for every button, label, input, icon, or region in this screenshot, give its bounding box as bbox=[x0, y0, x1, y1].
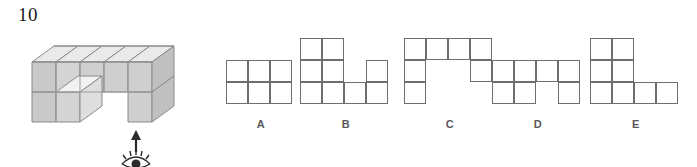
option-d-grid bbox=[492, 60, 584, 126]
solid-figure-3d bbox=[22, 30, 222, 140]
option-e-label: E bbox=[590, 118, 682, 130]
option-e-cell bbox=[590, 60, 612, 82]
option-b-cell bbox=[322, 82, 344, 104]
option-a-label: A bbox=[226, 118, 296, 130]
option-c-grid bbox=[404, 38, 496, 104]
option-b-grid bbox=[300, 38, 392, 104]
view-direction-svg bbox=[112, 128, 160, 167]
option-e[interactable]: E bbox=[590, 30, 682, 104]
option-d-cell bbox=[492, 82, 514, 104]
option-d-cell bbox=[514, 82, 536, 104]
option-e-grid bbox=[590, 38, 682, 104]
option-b[interactable]: B bbox=[300, 30, 392, 104]
option-c[interactable]: C bbox=[404, 30, 496, 104]
option-b-cell bbox=[322, 38, 344, 60]
option-b-cell bbox=[322, 60, 344, 82]
option-e-cell bbox=[612, 38, 634, 60]
option-a-cell bbox=[248, 82, 270, 104]
option-a-cell bbox=[270, 60, 292, 82]
option-c-cell bbox=[404, 38, 426, 60]
option-c-cell bbox=[404, 60, 426, 82]
option-d-cell bbox=[558, 60, 580, 82]
option-b-cell bbox=[300, 38, 322, 60]
option-b-cell bbox=[344, 82, 366, 104]
solid-figure-svg bbox=[22, 30, 222, 140]
option-b-cell bbox=[300, 60, 322, 82]
up-arrow-icon bbox=[131, 130, 141, 152]
option-d-cell bbox=[492, 60, 514, 82]
option-c-cell bbox=[448, 38, 470, 60]
option-d-cell bbox=[514, 60, 536, 82]
option-a-cell bbox=[248, 60, 270, 82]
option-c-cell bbox=[404, 82, 426, 104]
option-b-cell bbox=[300, 82, 322, 104]
option-d-cell bbox=[536, 60, 558, 82]
option-e-cell bbox=[634, 82, 656, 104]
option-a[interactable]: A bbox=[226, 30, 296, 126]
option-b-label: B bbox=[300, 118, 392, 130]
option-c-cell bbox=[470, 38, 492, 60]
option-e-cell bbox=[590, 38, 612, 60]
option-a-grid bbox=[226, 60, 296, 126]
option-b-cell bbox=[366, 60, 388, 82]
option-e-cell bbox=[612, 82, 634, 104]
option-b-cell bbox=[366, 82, 388, 104]
option-e-cell bbox=[612, 60, 634, 82]
eye-icon bbox=[122, 150, 150, 167]
option-d[interactable]: D bbox=[492, 30, 584, 126]
question-number: 10 bbox=[18, 4, 38, 26]
option-d-label: D bbox=[492, 118, 584, 130]
view-direction-indicator bbox=[112, 128, 160, 167]
option-e-cell bbox=[656, 82, 678, 104]
option-d-cell bbox=[558, 82, 580, 104]
option-c-cell bbox=[426, 38, 448, 60]
option-c-label: C bbox=[404, 118, 496, 130]
option-a-cell bbox=[226, 82, 248, 104]
option-a-cell bbox=[270, 82, 292, 104]
option-a-cell bbox=[226, 60, 248, 82]
option-c-cell bbox=[470, 60, 492, 82]
option-e-cell bbox=[590, 82, 612, 104]
